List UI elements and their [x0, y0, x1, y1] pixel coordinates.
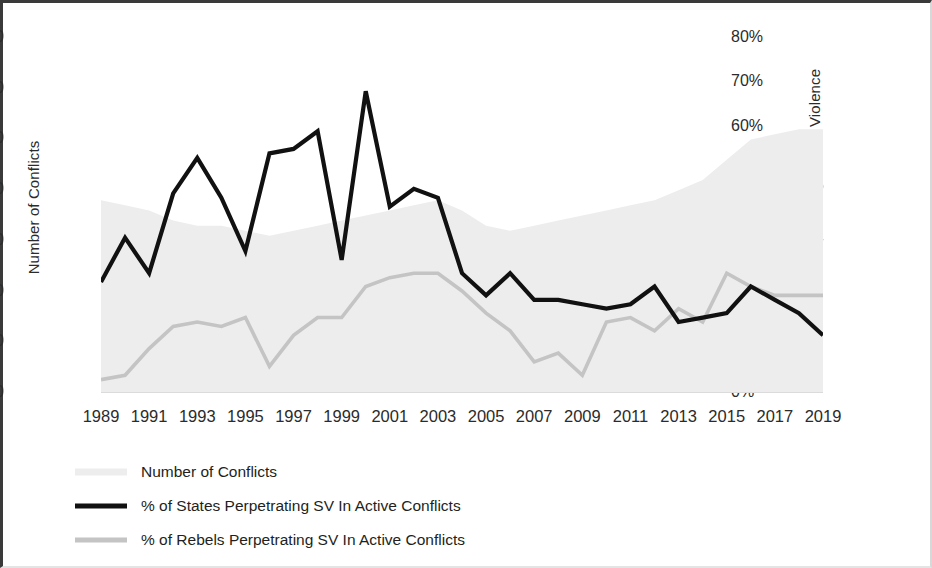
y-axis-left-tick-label: 50: [0, 130, 4, 146]
y-axis-left-tick-label: 0: [0, 384, 4, 400]
plot-area: [101, 38, 823, 393]
y-axis-left-tick-label: 30: [0, 232, 4, 248]
legend-label: % of States Perpetrating SV In Active Co…: [141, 497, 461, 515]
plot-svg: [101, 38, 823, 393]
chart-legend: Number of Conflicts % of States Perpetra…: [75, 455, 755, 557]
series-number-of-conflicts-area: [101, 129, 823, 393]
y-axis-left-tick-label: 60: [0, 80, 4, 96]
y-axis-left-tick-label: 70: [0, 29, 4, 45]
legend-label: Number of Conflicts: [141, 463, 277, 481]
chart-figure: Number of Conflicts % of Actors Perpetra…: [0, 0, 932, 568]
y-axis-left-tick-label: 20: [0, 283, 4, 299]
legend-item-states: % of States Perpetrating SV In Active Co…: [75, 489, 755, 523]
x-axis-tick-label: 2019: [793, 407, 853, 426]
legend-item-rebels: % of Rebels Perpetrating SV In Active Co…: [75, 523, 755, 557]
legend-item-number-of-conflicts: Number of Conflicts: [75, 455, 755, 489]
legend-label: % of Rebels Perpetrating SV In Active Co…: [141, 531, 465, 549]
y-axis-left-tick-label: 40: [0, 181, 4, 197]
y-axis-left-tick-label: 10: [0, 333, 4, 349]
y-axis-left-title: Number of Conflicts: [25, 108, 42, 308]
